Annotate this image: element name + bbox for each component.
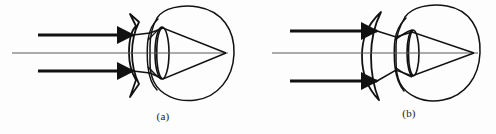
panel-b-caption: (b) — [389, 107, 429, 119]
corrective-lens-a — [129, 14, 139, 97]
panel-a-caption: (a) — [143, 110, 183, 122]
optics-figure: (a) (b) — [0, 0, 496, 134]
panel-a — [12, 6, 234, 101]
panel-b — [272, 5, 480, 101]
refracted-ray-upper-b — [377, 31, 474, 53]
corrective-lens-b — [362, 12, 381, 100]
refracted-ray-lower-b — [377, 53, 474, 81]
